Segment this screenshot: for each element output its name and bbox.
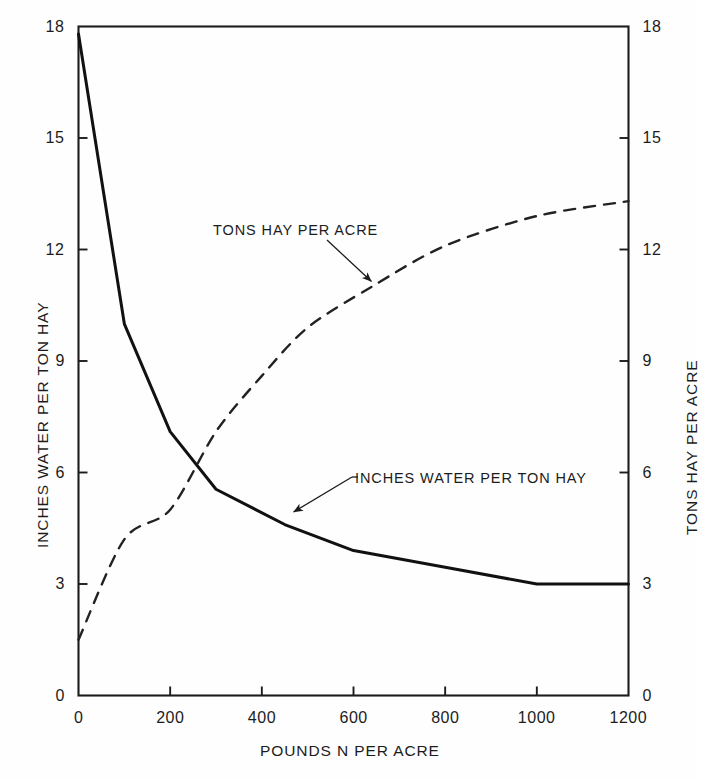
right-tick-label-0: 0 bbox=[643, 687, 652, 705]
series-line-inches-water bbox=[79, 34, 629, 584]
x-axis-title: POUNDS N PER ACRE bbox=[260, 742, 440, 760]
x-tick-label-800: 800 bbox=[431, 709, 459, 727]
data-series-group bbox=[79, 34, 629, 640]
right-tick-label-3: 3 bbox=[643, 575, 652, 593]
left-axis-title: INCHES WATER PER TON HAY bbox=[34, 302, 52, 548]
left-tick-label-0: 0 bbox=[56, 687, 65, 705]
series-line-tons-hay bbox=[79, 201, 629, 640]
axis-frame bbox=[79, 27, 629, 696]
x-tick-label-1200: 1200 bbox=[610, 709, 648, 727]
right-axis-title: TONS HAY PER ACRE bbox=[683, 359, 701, 535]
left-tick-label-3: 3 bbox=[56, 575, 65, 593]
left-tick-label-6: 6 bbox=[56, 464, 65, 482]
right-tick-label-12: 12 bbox=[643, 241, 662, 259]
x-tick-label-0: 0 bbox=[74, 709, 83, 727]
x-tick-label-200: 200 bbox=[156, 709, 184, 727]
annotation-inches-water-per-ton-hay: INCHES WATER PER TON HAY bbox=[355, 470, 587, 486]
plot-border bbox=[79, 27, 629, 696]
right-tick-label-15: 15 bbox=[643, 129, 662, 147]
x-tick-label-400: 400 bbox=[248, 709, 276, 727]
left-tick-label-12: 12 bbox=[46, 241, 65, 259]
annotation-tons-hay-per-acre: TONS HAY PER ACRE bbox=[213, 222, 378, 238]
left-tick-label-9: 9 bbox=[56, 352, 65, 370]
leader-line-inches-water bbox=[294, 477, 353, 512]
left-tick-label-18: 18 bbox=[46, 18, 65, 36]
x-tick-label-600: 600 bbox=[340, 709, 368, 727]
leader-line-tons-hay bbox=[327, 240, 372, 282]
left-tick-label-15: 15 bbox=[46, 129, 65, 147]
right-tick-label-9: 9 bbox=[643, 352, 652, 370]
x-tick-label-1000: 1000 bbox=[518, 709, 556, 727]
right-tick-label-6: 6 bbox=[643, 464, 652, 482]
right-tick-label-18: 18 bbox=[643, 18, 662, 36]
